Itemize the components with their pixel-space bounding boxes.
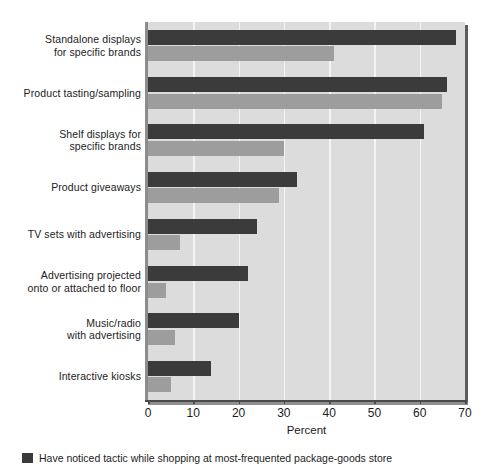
bar-dark: [148, 30, 456, 45]
category-label-line: Interactive kiosks: [0, 370, 141, 383]
x-axis-tick-label: 60: [405, 406, 435, 420]
category-label: Interactive kiosks: [0, 370, 141, 383]
bar-dark: [148, 219, 257, 234]
x-axis-tick-label: 0: [133, 406, 163, 420]
bar-light: [148, 94, 442, 109]
x-axis-tick: [148, 400, 150, 404]
category-label: Advertising projectedonto or attached to…: [0, 269, 141, 294]
x-axis-tick-label: 40: [314, 406, 344, 420]
bar-dark: [148, 77, 447, 92]
category-label: Standalone displaysfor specific brands: [0, 33, 141, 58]
x-axis-tick: [329, 400, 331, 404]
legend-label: Have noticed tactic while shopping at mo…: [39, 452, 392, 464]
category-label-line: Standalone displays: [0, 33, 141, 46]
legend-entry: Have noticed tactic while shopping at mo…: [22, 452, 484, 464]
bar-light: [148, 46, 334, 61]
x-axis-tick: [284, 400, 286, 404]
category-label-line: Product tasting/sampling: [0, 87, 141, 100]
x-axis-tick-label: 20: [224, 406, 254, 420]
chart-legend: Have noticed tactic while shopping at mo…: [22, 452, 484, 469]
bar-chart: Standalone displaysfor specific brandsPr…: [0, 0, 484, 473]
x-axis-tick-label: 30: [269, 406, 299, 420]
category-label-line: onto or attached to floor: [0, 282, 141, 295]
category-label-line: Advertising projected: [0, 269, 141, 282]
category-label-line: TV sets with advertising: [0, 228, 141, 241]
bar-dark: [148, 313, 239, 328]
bar-dark: [148, 124, 424, 139]
category-label: Shelf displays forspecific brands: [0, 128, 141, 153]
category-label: Music/radiowith advertising: [0, 317, 141, 342]
x-axis-tick: [420, 400, 422, 404]
category-label-line: specific brands: [0, 140, 141, 153]
bar-light: [148, 141, 284, 156]
x-axis-tick: [193, 400, 195, 404]
bar-light: [148, 235, 180, 250]
x-axis-title: Percent: [148, 424, 465, 436]
x-axis-tick-label: 10: [178, 406, 208, 420]
category-label: TV sets with advertising: [0, 228, 141, 241]
legend-swatch-icon: [22, 453, 33, 463]
category-label-line: Shelf displays for: [0, 128, 141, 141]
x-axis-tick-label: 70: [450, 406, 480, 420]
bar-dark: [148, 361, 211, 376]
category-axis-labels: Standalone displaysfor specific brandsPr…: [0, 22, 145, 400]
bar-light: [148, 188, 279, 203]
bar-dark: [148, 172, 297, 187]
x-axis-tick: [239, 400, 241, 404]
x-axis-tick: [374, 400, 376, 404]
category-label: Product tasting/sampling: [0, 87, 141, 100]
x-axis-tick: [465, 400, 467, 404]
bar-light: [148, 283, 166, 298]
category-label-line: with advertising: [0, 329, 141, 342]
y-axis-line: [145, 22, 148, 400]
category-label-line: Music/radio: [0, 317, 141, 330]
category-label: Product giveaways: [0, 181, 141, 194]
bar-light: [148, 330, 175, 345]
category-label-line: Product giveaways: [0, 181, 141, 194]
x-axis-tick-label: 50: [359, 406, 389, 420]
category-label-line: for specific brands: [0, 46, 141, 59]
bar-light: [148, 377, 171, 392]
plot-area: [148, 22, 465, 400]
bar-dark: [148, 266, 248, 281]
